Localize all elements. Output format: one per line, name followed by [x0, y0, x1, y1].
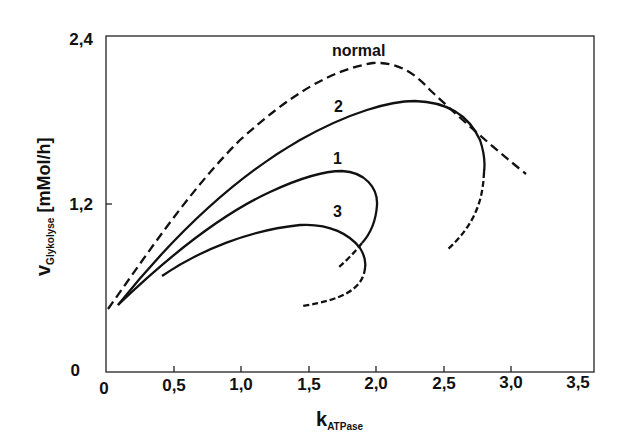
x-tick-label: 2,5 — [432, 374, 456, 393]
curve-2-solid — [118, 101, 485, 305]
x-tick-label: 0,5 — [162, 376, 186, 395]
curve-3-solid — [162, 225, 365, 276]
y-tick-label: 1,2 — [69, 195, 93, 214]
x-ticks — [174, 366, 511, 372]
x-tick-label: 0 — [99, 379, 108, 398]
curve-1-solid — [118, 171, 377, 305]
plot-frame — [106, 36, 594, 372]
chart: 0 0,5 1,0 1,5 2,0 2,5 3,0 3,5 0 1,2 2,4 … — [0, 0, 621, 447]
x-tick-label: 1,5 — [297, 375, 321, 394]
x-tick-label: 2,0 — [364, 374, 388, 393]
x-tick-label: 1,0 — [229, 375, 253, 394]
x-tick-label: 3,0 — [499, 373, 523, 392]
curve-normal — [108, 63, 526, 309]
curve-2-dashed — [447, 172, 484, 250]
x-tick-label: 3,5 — [566, 373, 590, 392]
y-tick-label: 0 — [71, 361, 80, 380]
label-normal: normal — [332, 42, 385, 59]
curve-3-dashed — [303, 268, 365, 306]
x-axis-title: kATPase — [316, 408, 364, 432]
y-tick-label: 2,4 — [69, 30, 93, 49]
label-curve-2: 2 — [334, 98, 343, 115]
label-curve-1: 1 — [333, 150, 342, 167]
y-axis-title: vGlykolyse [mMol/h] — [32, 138, 56, 276]
label-curve-3: 3 — [333, 203, 342, 220]
y-tick-labels: 0 1,2 2,4 — [69, 30, 93, 380]
x-tick-labels: 0 0,5 1,0 1,5 2,0 2,5 3,0 3,5 — [99, 373, 590, 398]
